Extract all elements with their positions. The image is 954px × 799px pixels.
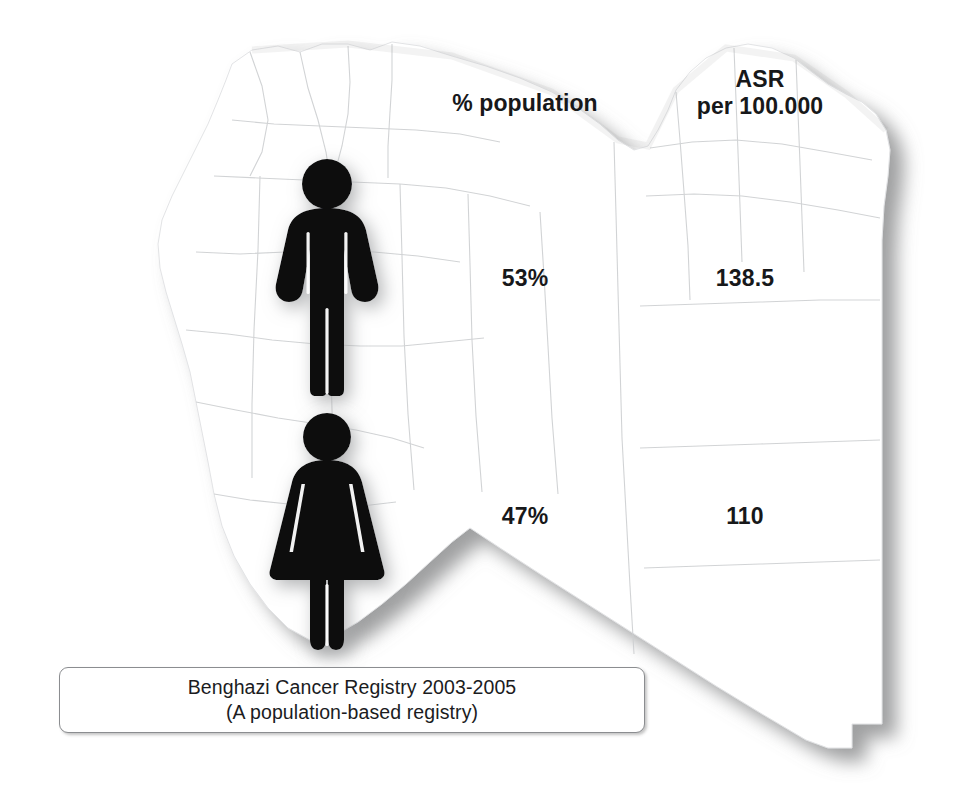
female-asr-value: 110 bbox=[675, 503, 815, 530]
male-figure-icon bbox=[262, 158, 392, 396]
column-header-asr: ASR per 100.000 bbox=[655, 66, 865, 120]
female-figure-icon bbox=[252, 412, 402, 650]
male-asr-value: 138.5 bbox=[675, 265, 815, 292]
caption-line-primary: Benghazi Cancer Registry 2003-2005 bbox=[188, 675, 517, 700]
infographic-canvas: % population ASR per 100.000 bbox=[0, 0, 954, 799]
column-header-population: % population bbox=[425, 90, 625, 117]
male-population-percent: 53% bbox=[455, 265, 595, 292]
caption-line-secondary: (A population-based registry) bbox=[226, 700, 478, 725]
caption-box: Benghazi Cancer Registry 2003-2005 (A po… bbox=[59, 667, 645, 733]
female-population-percent: 47% bbox=[455, 503, 595, 530]
